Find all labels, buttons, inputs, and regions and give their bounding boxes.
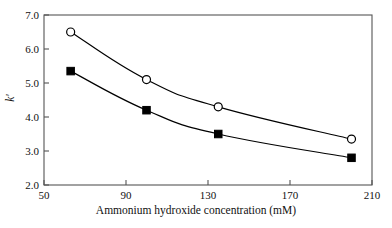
- y-tick-label: 5.0: [12, 78, 39, 89]
- chart-figure: 2.03.04.05.06.07.0 5090130170210 Ammoniu…: [0, 0, 392, 228]
- data-point-marker: [348, 135, 356, 143]
- y-axis-title: k': [4, 94, 16, 102]
- x-axis-ticks: [44, 180, 372, 185]
- y-tick-label: 6.0: [12, 44, 39, 55]
- data-point-marker: [143, 106, 151, 114]
- data-point-marker: [215, 130, 223, 138]
- data-point-marker: [67, 28, 75, 36]
- data-series-group: [67, 28, 356, 162]
- y-tick-label: 7.0: [12, 10, 39, 21]
- data-point-marker: [143, 76, 151, 84]
- y-tick-label: 4.0: [12, 112, 39, 123]
- data-point-marker: [67, 67, 75, 75]
- x-axis-title: Ammonium hydroxide concentration (mM): [0, 204, 392, 216]
- data-point-marker: [214, 103, 222, 111]
- series-line-open-circle-series: [71, 32, 352, 139]
- series-line-filled-square-series: [71, 71, 352, 158]
- x-tick-label: 90: [121, 190, 132, 201]
- plot-frame: [44, 15, 372, 185]
- data-point-marker: [348, 154, 356, 162]
- chart-plot-area: [0, 0, 392, 228]
- x-tick-label: 170: [282, 190, 299, 201]
- x-tick-label: 130: [200, 190, 217, 201]
- y-tick-label: 2.0: [12, 180, 39, 191]
- y-tick-label: 3.0: [12, 146, 39, 157]
- y-axis-ticks: [44, 15, 49, 185]
- x-tick-label: 50: [39, 190, 50, 201]
- x-tick-label: 210: [364, 190, 381, 201]
